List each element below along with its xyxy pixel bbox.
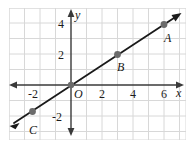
point-b-marker [114, 51, 121, 58]
y-tick-label-neg2: -2 [52, 111, 62, 123]
x-tick-label-2: 2 [99, 88, 105, 100]
origin-label: O [74, 88, 83, 100]
point-label-a: A [164, 32, 171, 44]
point-c-marker [29, 108, 36, 115]
y-tick-label-2: 2 [58, 49, 64, 61]
y-axis [68, 9, 75, 136]
point-label-c: C [29, 124, 37, 136]
x-axis-label: x [176, 87, 181, 99]
x-tick-label-neg2: -2 [28, 88, 38, 100]
y-tick-label-4: 4 [58, 18, 64, 30]
x-tick-label-6: 6 [161, 88, 167, 100]
coordinate-plane-figure: 4 2 -2 -2 2 4 6 O y x A B C [0, 0, 194, 147]
y-axis-label: y [75, 9, 80, 21]
point-label-b: B [117, 61, 124, 73]
point-a-marker [161, 21, 168, 28]
x-tick-label-4: 4 [130, 88, 136, 100]
